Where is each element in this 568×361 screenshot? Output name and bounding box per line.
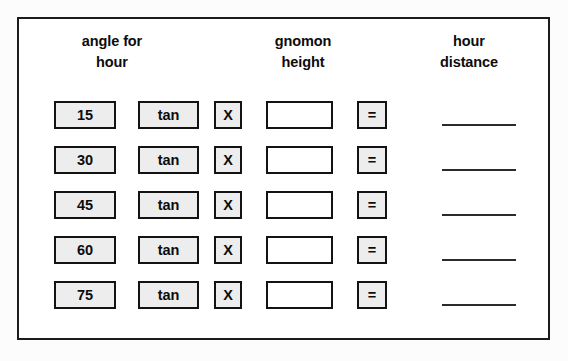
calculation-rows: 15 tan X = 30 tan X = 45 tan X = 60 [19,19,552,342]
angle-value-box: 15 [54,101,116,129]
tan-button[interactable]: tan [138,281,199,309]
gnomon-height-input[interactable] [266,281,333,309]
tan-button[interactable]: tan [138,191,199,219]
angle-value-box: 30 [54,146,116,174]
angle-value-box: 75 [54,281,116,309]
equals-operator: = [357,146,387,174]
multiply-operator: X [214,281,242,309]
table-row: 15 tan X = [19,101,552,130]
multiply-operator: X [214,101,242,129]
hour-distance-blank[interactable] [442,169,516,171]
table-row: 60 tan X = [19,236,552,265]
multiply-operator: X [214,146,242,174]
equals-operator: = [357,281,387,309]
multiply-operator: X [214,236,242,264]
table-row: 30 tan X = [19,146,552,175]
hour-distance-blank[interactable] [442,214,516,216]
gnomon-height-input[interactable] [266,191,333,219]
multiply-operator: X [214,191,242,219]
gnomon-height-input[interactable] [266,146,333,174]
equals-operator: = [357,101,387,129]
table-row: 45 tan X = [19,191,552,220]
gnomon-height-input[interactable] [266,101,333,129]
hour-distance-blank[interactable] [442,259,516,261]
worksheet-frame: angle for hour gnomon height hour distan… [17,17,550,340]
hour-distance-blank[interactable] [442,304,516,306]
equals-operator: = [357,191,387,219]
table-row: 75 tan X = [19,281,552,310]
tan-button[interactable]: tan [138,101,199,129]
angle-value-box: 60 [54,236,116,264]
gnomon-height-input[interactable] [266,236,333,264]
tan-button[interactable]: tan [138,236,199,264]
equals-operator: = [357,236,387,264]
angle-value-box: 45 [54,191,116,219]
hour-distance-blank[interactable] [442,124,516,126]
tan-button[interactable]: tan [138,146,199,174]
